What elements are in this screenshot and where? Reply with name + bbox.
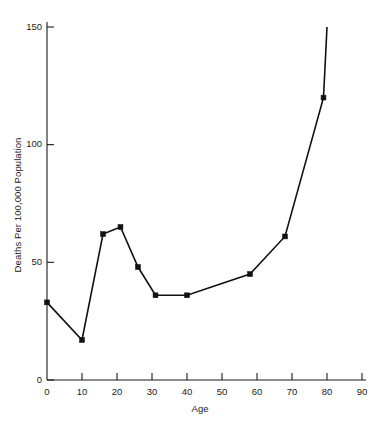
x-tick-label: 40	[182, 386, 193, 397]
x-tick-label: 70	[287, 386, 298, 397]
data-point-marker	[185, 293, 190, 298]
data-point-marker	[248, 272, 253, 277]
data-point-marker	[118, 225, 123, 230]
x-tick-label: 0	[44, 386, 49, 397]
y-tick-label: 100	[26, 138, 42, 149]
y-axis-title: Deaths Per 100,000 Population	[12, 138, 23, 273]
data-point-marker	[45, 300, 50, 305]
x-tick-label: 60	[252, 386, 263, 397]
data-series-markers	[45, 95, 326, 342]
y-tick-label: 0	[37, 374, 42, 385]
x-tick-label: 80	[322, 386, 333, 397]
y-axis-ticks: 050100150	[26, 21, 54, 385]
y-tick-label: 150	[26, 21, 42, 32]
x-tick-label: 10	[77, 386, 88, 397]
x-axis-ticks: 0102030405060708090	[44, 373, 367, 397]
x-tick-label: 90	[357, 386, 368, 397]
x-tick-label: 50	[217, 386, 228, 397]
x-tick-label: 30	[147, 386, 158, 397]
line-chart: 050100150 0102030405060708090 Age Deaths…	[0, 0, 375, 425]
data-point-marker	[80, 338, 85, 343]
data-point-marker	[283, 234, 288, 239]
data-point-marker	[136, 265, 141, 270]
chart-container: 050100150 0102030405060708090 Age Deaths…	[0, 0, 375, 425]
data-point-marker	[101, 232, 106, 237]
data-point-marker	[153, 293, 158, 298]
x-axis-title: Age	[192, 403, 209, 414]
x-tick-label: 20	[112, 386, 123, 397]
data-point-marker	[321, 95, 326, 100]
y-tick-label: 50	[31, 256, 42, 267]
